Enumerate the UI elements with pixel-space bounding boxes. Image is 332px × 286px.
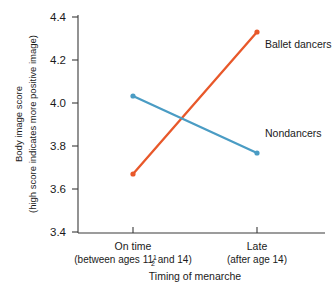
data-point-ballet-on-time — [130, 171, 135, 176]
x-category-label-on-time: On time — [115, 240, 152, 252]
y-tick-label-3.8: 3.8 — [50, 140, 66, 152]
sublabel-suffix: and 14) — [155, 254, 192, 265]
data-point-nondancers-late — [254, 150, 259, 155]
data-point-ballet-late — [254, 29, 259, 34]
y-tick-label-4.4: 4.4 — [50, 11, 67, 23]
sublabel-prefix: (between ages 11 — [74, 254, 153, 265]
data-point-nondancers-on-time — [130, 93, 135, 98]
series-line-ballet-dancers — [133, 32, 257, 174]
x-category-label-late: Late — [247, 240, 268, 252]
x-axis-title: Timing of menarche — [149, 270, 242, 282]
series-label-ballet-dancers: Ballet dancers — [265, 38, 332, 50]
y-tick-label-4.0: 4.0 — [50, 97, 66, 109]
y-tick-label-3.4: 3.4 — [50, 226, 67, 238]
x-category-sublabel-on-time: (between ages 111⁄2 and 14) — [74, 254, 191, 267]
y-axis-title-line2: (high score indicates more positive imag… — [27, 35, 38, 213]
x-category-sublabel-late: (after age 14) — [227, 254, 287, 265]
line-chart: 4.4 4.2 4.0 3.8 3.6 3.4 Ballet dancers N… — [0, 0, 332, 286]
y-tick-marks — [72, 17, 78, 232]
y-tick-label-4.2: 4.2 — [50, 54, 66, 66]
series-label-nondancers: Nondancers — [265, 127, 322, 139]
chart-figure: 4.4 4.2 4.0 3.8 3.6 3.4 Ballet dancers N… — [0, 0, 332, 286]
x-tick-marks — [133, 227, 257, 233]
y-axis-title-line1: Body image score — [13, 86, 24, 162]
y-tick-label-3.6: 3.6 — [50, 183, 66, 195]
